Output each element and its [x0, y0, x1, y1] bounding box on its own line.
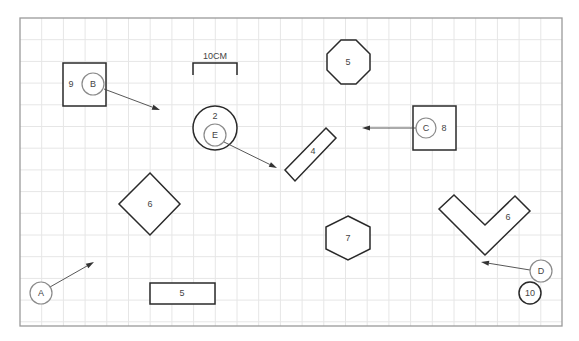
v-shape[interactable] — [439, 195, 530, 255]
shape-label: 7 — [345, 233, 350, 243]
shape-label: 5 — [345, 57, 350, 67]
shape-label: 6 — [505, 212, 510, 222]
shape-label: 5 — [179, 288, 184, 298]
floor-plan-diagram: 10CM 9 2 5 8 4 6 7 6 5 10 ABCDE — [0, 0, 579, 341]
shape-rotated-rect-4[interactable]: 4 — [285, 128, 336, 181]
marker-label: B — [90, 79, 96, 89]
shape-label: 6 — [147, 199, 152, 209]
shape-label: 9 — [68, 79, 73, 89]
marker-a[interactable]: A — [30, 262, 94, 304]
arrowhead-icon — [481, 261, 489, 266]
arrowhead-icon — [269, 162, 277, 168]
marker-c[interactable]: C — [362, 118, 436, 138]
shape-octagon-5[interactable]: 5 — [327, 40, 370, 84]
arrowhead-icon — [152, 105, 160, 110]
callout-markers: ABCDE — [30, 73, 552, 304]
marker-label: E — [212, 130, 218, 140]
marker-label: D — [538, 266, 545, 276]
arrow-line — [489, 263, 530, 270]
shape-label: 10 — [525, 288, 535, 298]
shape-circle-10[interactable]: 10 — [519, 282, 541, 304]
shape-label: 2 — [212, 111, 217, 121]
shape-label: 4 — [310, 146, 315, 156]
shape-hexagon-7[interactable]: 7 — [326, 216, 370, 260]
shape-rect-5[interactable]: 5 — [150, 283, 215, 304]
scale-label: 10CM — [203, 51, 227, 61]
marker-label: A — [38, 288, 44, 298]
arrow-line — [50, 266, 87, 287]
marker-label: C — [423, 123, 430, 133]
shape-v-6[interactable]: 6 — [439, 195, 530, 255]
arrow-line — [224, 142, 270, 164]
shape-label: 8 — [441, 123, 446, 133]
arrowhead-icon — [86, 262, 94, 268]
